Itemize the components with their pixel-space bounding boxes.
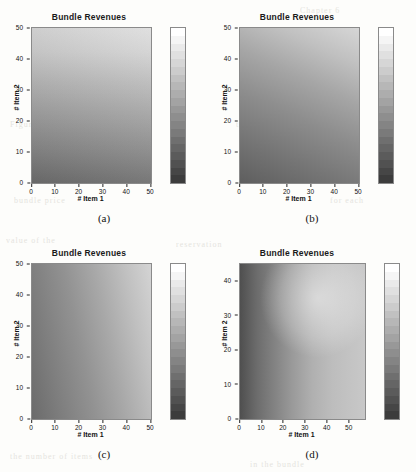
x-axis-tick: 30 [99, 420, 106, 431]
y-axis-tick: 0 [19, 415, 27, 422]
panel-c-title: Bundle Revenues [22, 248, 156, 258]
panel-a-caption: (a) [0, 212, 208, 224]
x-axis-tick: 40 [323, 420, 330, 431]
panel-b-caption: (b) [208, 212, 416, 224]
y-axis-tick: 0 [227, 415, 235, 422]
panel-d: Bundle Revenues # Item 2 # Item 1 010203… [208, 236, 416, 472]
colorbar-tick: 40 [185, 50, 186, 57]
y-axis-tick: 50 [16, 260, 27, 267]
x-axis-tick: 30 [99, 184, 106, 195]
x-axis-tick: 50 [354, 184, 361, 195]
y-axis-tick: 40 [224, 55, 235, 62]
panel-b-colorbar: 0500100015002000 [378, 27, 394, 184]
colorbar-tick: 0 [393, 180, 394, 185]
x-axis-tick: 0 [237, 420, 241, 431]
x-axis-tick: 20 [279, 420, 286, 431]
y-axis-tick: 0 [19, 179, 27, 186]
y-axis-tick: 30 [224, 86, 235, 93]
x-axis-tick: 10 [51, 420, 58, 431]
panel-c-xlabel: # Item 1 [31, 431, 150, 438]
y-axis-tick: 30 [224, 311, 235, 318]
y-axis-tick: 40 [224, 277, 235, 284]
colorbar-tick: 2000 [393, 39, 394, 46]
panel-b-title: Bundle Revenues [230, 12, 364, 22]
y-axis-tick: 50 [224, 24, 235, 31]
colorbar-band [171, 175, 185, 184]
x-axis-tick: 30 [307, 184, 314, 195]
x-axis-tick: 30 [301, 420, 308, 431]
panel-a-xlabel: # Item 1 [31, 195, 150, 202]
panel-a-heatmap-xtilt [32, 28, 151, 183]
y-axis-tick: 10 [16, 384, 27, 391]
colorbar-tick: 500 [185, 269, 186, 276]
x-axis-tick: 40 [331, 184, 338, 195]
x-axis-tick: 50 [345, 420, 352, 431]
y-axis-tick: 20 [16, 353, 27, 360]
panel-b-heatmap [240, 28, 359, 183]
panel-a-title: Bundle Revenues [22, 12, 156, 22]
panel-d-heatmap [240, 264, 365, 419]
panel-d-caption: (d) [208, 448, 416, 460]
x-axis-tick: 20 [75, 420, 82, 431]
colorbar-tick: 20 [185, 115, 186, 122]
colorbar-band [379, 175, 393, 184]
colorbar-tick: 300 [185, 328, 186, 335]
colorbar-tick: 0 [399, 416, 400, 421]
colorbar-tick: 500 [393, 144, 394, 151]
x-axis-tick: 0 [237, 184, 241, 195]
panel-b-xlabel: # Item 1 [239, 195, 358, 202]
panel-b-plot-area [239, 27, 360, 184]
y-axis-tick: 40 [16, 291, 27, 298]
y-axis-tick: 20 [16, 117, 27, 124]
colorbar-tick: 200 [399, 377, 400, 384]
colorbar-tick: 1000 [393, 109, 394, 116]
x-axis-tick: 0 [29, 420, 33, 431]
y-axis-tick: 10 [224, 148, 235, 155]
y-axis-tick: 20 [224, 346, 235, 353]
panel-c-caption: (c) [0, 448, 208, 460]
y-axis-tick: 30 [16, 86, 27, 93]
panel-c-colorbar: 0100200300400500 [170, 263, 186, 420]
figure-grid: Bundle Revenues # Item 2 # Item 1 010203… [0, 0, 416, 472]
colorbar-band [171, 411, 185, 420]
panel-d-plot-area [239, 263, 366, 420]
x-axis-tick: 10 [259, 184, 266, 195]
y-axis-tick: 20 [224, 117, 235, 124]
colorbar-tick: 200 [185, 357, 186, 364]
x-axis-tick: 20 [283, 184, 290, 195]
panel-a-colorbar: 10203040 [170, 27, 186, 184]
x-axis-tick: 50 [146, 184, 153, 195]
colorbar-tick: 1500 [393, 74, 394, 81]
colorbar-tick: 400 [185, 299, 186, 306]
y-axis-tick: 50 [16, 24, 27, 31]
x-axis-tick: 40 [123, 184, 130, 195]
y-axis-tick: 10 [16, 148, 27, 155]
x-axis-tick: 10 [257, 420, 264, 431]
colorbar-tick: 400 [399, 338, 400, 345]
x-axis-tick: 10 [51, 184, 58, 195]
colorbar-tick: 600 [399, 299, 400, 306]
colorbar-band [385, 411, 399, 420]
x-axis-tick: 20 [75, 184, 82, 195]
panel-a-plot-area [31, 27, 152, 184]
colorbar-tick: 800 [399, 263, 400, 268]
y-axis-tick: 0 [227, 179, 235, 186]
x-axis-tick: 50 [146, 420, 153, 431]
colorbar-tick: 30 [185, 83, 186, 90]
panel-d-colorbar: 0200400600800 [384, 263, 400, 420]
panel-d-title: Bundle Revenues [230, 248, 364, 258]
panel-d-xlabel: # Item 1 [239, 431, 364, 438]
x-axis-tick: 40 [123, 420, 130, 431]
panel-c-plot-area [31, 263, 152, 420]
panel-a: Bundle Revenues # Item 2 # Item 1 010203… [0, 0, 208, 236]
colorbar-tick: 100 [185, 386, 186, 393]
y-axis-tick: 40 [16, 55, 27, 62]
panel-c: Bundle Revenues # Item 2 # Item 1 010203… [0, 236, 208, 472]
colorbar-tick: 10 [185, 147, 186, 154]
panel-c-heatmap [32, 264, 151, 419]
colorbar-tick: 0 [185, 416, 186, 421]
panel-b: Bundle Revenues # Item 2 # Item 1 010203… [208, 0, 416, 236]
y-axis-tick: 10 [224, 380, 235, 387]
y-axis-tick: 30 [16, 322, 27, 329]
x-axis-tick: 0 [29, 184, 33, 195]
